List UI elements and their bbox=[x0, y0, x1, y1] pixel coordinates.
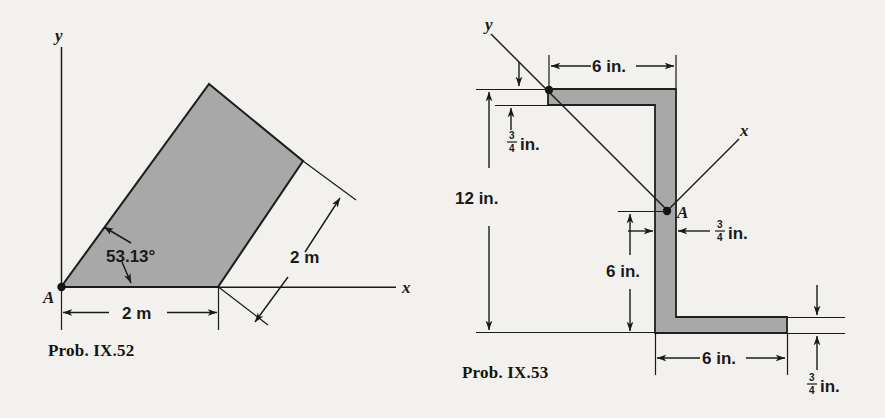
bottom-flange-length-label: 6 in. bbox=[702, 349, 736, 368]
y-axis-label: y bbox=[483, 15, 493, 34]
figure-caption: Prob. IX.53 bbox=[462, 363, 548, 382]
figure-prob-ix-53: y x A 6 in. 12 in. 3 4 in. bbox=[440, 0, 885, 418]
point-a-label: A bbox=[676, 203, 688, 222]
fraction-numerator: 3 bbox=[509, 130, 515, 141]
x-axis-label: x bbox=[739, 121, 749, 140]
fraction-denominator: 4 bbox=[717, 232, 723, 243]
y-axis bbox=[491, 34, 669, 212]
dim-line-side-lower-seg bbox=[255, 277, 288, 322]
figure-prob-ix-52: y x A 53.13° 2 m 2 m Prob. IX.52 bbox=[0, 0, 443, 418]
bottom-flange-thickness-label: 3 4 in. bbox=[807, 372, 840, 396]
top-flange-thickness-label: 3 4 in. bbox=[507, 130, 540, 154]
shaded-quadrilateral bbox=[61, 84, 303, 287]
fraction-unit: in. bbox=[520, 135, 540, 154]
ext-line-side-lower bbox=[219, 287, 269, 325]
base-dimension-label: 2 m bbox=[122, 304, 151, 323]
figure-page: y x A 53.13° 2 m 2 m Prob. IX.52 y bbox=[0, 0, 885, 418]
overall-height-label: 12 in. bbox=[455, 189, 498, 208]
point-a-label: A bbox=[42, 288, 54, 307]
fraction-numerator: 3 bbox=[717, 219, 723, 230]
side-dimension-label: 2 m bbox=[290, 248, 319, 267]
fraction-denominator: 4 bbox=[509, 143, 515, 154]
y-axis-label: y bbox=[53, 26, 63, 45]
angle-value-label: 53.13° bbox=[106, 247, 156, 266]
fraction-denominator: 4 bbox=[809, 385, 815, 396]
web-lower-height-label: 6 in. bbox=[606, 262, 640, 281]
fraction-unit: in. bbox=[728, 224, 748, 243]
top-flange-length-label: 6 in. bbox=[592, 57, 626, 76]
web-thickness-label: 3 4 in. bbox=[715, 219, 748, 243]
ext-line-side-upper bbox=[303, 161, 356, 200]
x-axis-label: x bbox=[401, 278, 411, 297]
dim-line-side-upper-seg bbox=[305, 198, 340, 252]
fraction-numerator: 3 bbox=[809, 372, 815, 383]
figure-caption: Prob. IX.52 bbox=[48, 341, 134, 360]
fraction-unit: in. bbox=[820, 377, 840, 396]
x-axis bbox=[667, 139, 739, 211]
